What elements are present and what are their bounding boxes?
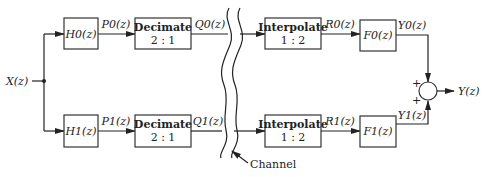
f1-label: F1(z) [362,125,392,138]
y0-line [396,35,428,82]
interpolate-label-1: Interpolate [258,118,327,131]
summing-junction [419,82,437,100]
channel-label: Channel [250,158,297,171]
r0-label: R0(z) [324,18,355,31]
r1-label: R1(z) [324,115,355,128]
q1-label: Q1(z) [193,115,223,128]
p0-label: P0(z) [101,18,131,31]
filter-bank-diagram: X(z) H0(z) P0(z) Decimate 2 : 1 Q0(z) In… [0,0,488,177]
channel-line-right [232,8,243,158]
decimate-label-0: Decimate [134,21,192,34]
f0-label: F0(z) [362,29,392,42]
h0-label: H0(z) [65,28,97,41]
y0-label: Y0(z) [398,19,427,32]
branch-1: H1(z) P1(z) Decimate 2 : 1 Q1(z) Interpo… [64,101,428,147]
input-label: X(z) [5,75,28,88]
h1-label: H1(z) [65,125,97,138]
interpolate-ratio-1: 1 : 2 [281,131,306,144]
decimate-label-1: Decimate [134,118,192,131]
interpolate-label-0: Interpolate [258,21,327,34]
branch-0: H0(z) P0(z) Decimate 2 : 1 Q0(z) Interpo… [64,18,428,82]
p1-label: P1(z) [101,115,131,128]
y1-label: Y1(z) [398,109,427,122]
output-label: Y(z) [458,85,480,98]
sum-sign-bottom: + [412,94,421,107]
interpolate-ratio-0: 1 : 2 [281,34,306,47]
decimate-ratio-0: 2 : 1 [151,34,176,47]
channel-pointer-arrow [232,151,248,163]
decimate-ratio-1: 2 : 1 [151,131,176,144]
q0-label: Q0(z) [195,18,225,31]
sum-sign-top: + [412,77,421,90]
